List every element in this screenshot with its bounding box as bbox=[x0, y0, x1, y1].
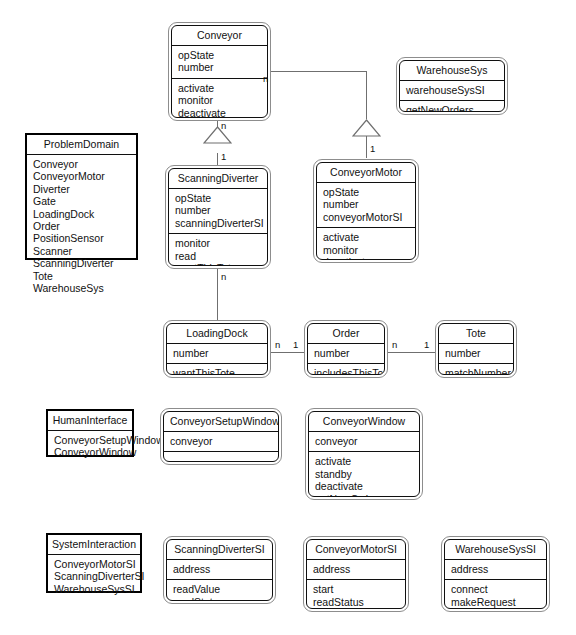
operation: wantThisTote bbox=[173, 367, 267, 375]
class-attributes-scanningdiverter: opState number scanningDiverterSI bbox=[169, 189, 267, 234]
attribute: number bbox=[323, 198, 415, 210]
class-inner-order: Order number includesThisTote bbox=[307, 323, 385, 375]
operation: includesThisTote bbox=[314, 367, 384, 375]
class-inner-conveyormotorsi: ConveyorMotorSI address start readStatus… bbox=[306, 539, 406, 609]
attribute: conveyorMotorSI bbox=[323, 211, 415, 223]
operation: makeRequest bbox=[451, 596, 546, 608]
operation: disconnect bbox=[451, 608, 546, 609]
class-name-conveyorwindow: ConveyorWindow bbox=[309, 412, 419, 432]
list-item: ConveyorMotor bbox=[33, 170, 136, 182]
operation: deactivate bbox=[178, 107, 267, 118]
class-inner-tote: Tote number matchNumber bbox=[438, 323, 514, 375]
operation: activate bbox=[315, 455, 419, 467]
list-item: Tote bbox=[33, 270, 136, 282]
class-inner-conveyor: Conveyor opState number activate monitor… bbox=[171, 25, 268, 118]
class-operations-conveyor: activate monitor deactivate bbox=[172, 79, 267, 118]
list-item: ConveyorWindow bbox=[54, 446, 132, 458]
list-item: ScanningDiverterSI bbox=[54, 570, 140, 582]
class-attributes-conveyorwindow: conveyor bbox=[309, 432, 419, 452]
package-items-problemdomain: Conveyor ConveyorMotor Diverter Gate Loa… bbox=[27, 155, 136, 298]
operation: connect bbox=[451, 583, 546, 595]
package-box-systeminteraction[interactable]: SystemInteraction ConveyorMotorSI Scanni… bbox=[46, 533, 142, 593]
class-operations-warehousesyssi: connect makeRequest disconnect bbox=[445, 580, 546, 609]
multiplicity-order-right: n bbox=[392, 340, 397, 350]
operation: getNewOrders bbox=[406, 104, 504, 112]
class-inner-warehousesyssi: WarehouseSysSI address connect makeReque… bbox=[444, 539, 547, 609]
class-box-warehousesys[interactable]: WarehouseSys warehouseSysSI getNewOrders bbox=[396, 57, 508, 115]
operation: standby bbox=[315, 468, 419, 480]
operation: stop bbox=[313, 608, 405, 609]
package-name-humaninterface: HumanInterface bbox=[48, 411, 132, 431]
class-operations-conveyorsetupwindow bbox=[164, 452, 278, 461]
attribute: opState bbox=[178, 49, 267, 61]
class-attributes-conveyor: opState number bbox=[172, 46, 267, 79]
list-item: WarehouseSysSI bbox=[54, 583, 140, 595]
class-attributes-conveyormotor: opState number conveyorMotorSI bbox=[317, 183, 415, 228]
class-inner-conveyormotor: ConveyorMotor opState number conveyorMot… bbox=[316, 162, 416, 260]
class-attributes-conveyorsetupwindow: conveyor bbox=[164, 432, 278, 452]
list-item: ConveyorSetupWindow bbox=[54, 434, 132, 446]
package-items-humaninterface: ConveyorSetupWindow ConveyorWindow bbox=[48, 431, 132, 463]
list-item: LoadingDock bbox=[33, 208, 136, 220]
operation: monitor bbox=[175, 237, 267, 249]
connector-conveyormotor-vertical bbox=[366, 71, 367, 119]
connector-order-to-tote bbox=[388, 352, 435, 353]
operation: activate bbox=[323, 231, 415, 243]
generalization-triangle-scanningdiverter bbox=[203, 126, 232, 144]
package-box-humaninterface[interactable]: HumanInterface ConveyorSetupWindow Conve… bbox=[46, 409, 134, 457]
class-operations-scanningdivertersi: readValue readStatus bbox=[167, 580, 272, 601]
class-name-order: Order bbox=[308, 324, 384, 344]
connector-scanningdiverter-to-triangle bbox=[217, 153, 218, 165]
operation: readValue bbox=[173, 583, 272, 595]
attribute: address bbox=[451, 563, 546, 575]
class-box-conveyorwindow[interactable]: ConveyorWindow conveyor activate standby… bbox=[305, 408, 423, 500]
operation: read bbox=[175, 250, 267, 262]
class-name-warehousesys: WarehouseSys bbox=[400, 61, 504, 81]
package-box-problemdomain[interactable]: ProblemDomain Conveyor ConveyorMotor Div… bbox=[25, 133, 138, 260]
class-inner-conveyorwindow: ConveyorWindow conveyor activate standby… bbox=[308, 411, 420, 497]
attribute: number bbox=[175, 204, 267, 216]
list-item: PositionSensor bbox=[33, 232, 136, 244]
operation: activate bbox=[178, 82, 267, 94]
multiplicity-tote-left: 1 bbox=[424, 340, 429, 350]
class-name-conveyorsetupwindow: ConveyorSetupWindow bbox=[164, 412, 278, 432]
attribute: opState bbox=[323, 186, 415, 198]
package-name-systeminteraction: SystemInteraction bbox=[48, 535, 140, 555]
operation: deactivate bbox=[315, 480, 419, 492]
class-attributes-scanningdivertersi: address bbox=[167, 560, 272, 580]
class-operations-order: includesThisTote bbox=[308, 364, 384, 375]
attribute: warehouseSysSI bbox=[406, 84, 504, 96]
list-item: Diverter bbox=[33, 183, 136, 195]
class-box-conveyor[interactable]: Conveyor opState number activate monitor… bbox=[168, 22, 271, 121]
class-box-scanningdivertersi[interactable]: ScanningDiverterSI address readValue rea… bbox=[163, 536, 276, 604]
class-box-tote[interactable]: Tote number matchNumber bbox=[435, 320, 517, 378]
multiplicity-loadingdock-right: n bbox=[275, 340, 280, 350]
class-name-scanningdivertersi: ScanningDiverterSI bbox=[167, 540, 272, 560]
class-box-warehousesyssi[interactable]: WarehouseSysSI address connect makeReque… bbox=[441, 536, 550, 612]
list-item: ScanningDiverter bbox=[33, 257, 136, 269]
class-operations-scanningdiverter: monitor read wantThisTote divert bbox=[169, 234, 267, 266]
multiplicity-conveyor-right: n bbox=[263, 74, 268, 84]
connector-loadingdock-to-order bbox=[271, 352, 304, 353]
class-name-conveyormotor: ConveyorMotor bbox=[317, 163, 415, 183]
multiplicity-scanningdiverter-top: 1 bbox=[221, 152, 226, 162]
class-attributes-warehousesys: warehouseSysSI bbox=[400, 81, 504, 101]
class-name-tote: Tote bbox=[439, 324, 513, 344]
class-name-loadingdock: LoadingDock bbox=[167, 324, 267, 344]
operation: monitor bbox=[178, 94, 267, 106]
class-name-scanningdiverter: ScanningDiverter bbox=[169, 169, 267, 189]
class-inner-scanningdiverter: ScanningDiverter opState number scanning… bbox=[168, 168, 268, 266]
list-item: Gate bbox=[33, 195, 136, 207]
operation: readStatus bbox=[313, 596, 405, 608]
class-box-conveyormotor[interactable]: ConveyorMotor opState number conveyorMot… bbox=[313, 159, 419, 263]
class-box-conveyorsetupwindow[interactable]: ConveyorSetupWindow conveyor bbox=[160, 408, 282, 465]
attribute: number bbox=[173, 347, 267, 359]
class-name-conveyor: Conveyor bbox=[172, 26, 267, 46]
class-box-scanningdiverter[interactable]: ScanningDiverter opState number scanning… bbox=[165, 165, 271, 269]
class-operations-loadingdock: wantThisTote bbox=[167, 364, 267, 375]
class-box-loadingdock[interactable]: LoadingDock number wantThisTote bbox=[163, 320, 271, 378]
class-box-conveyormotorsi[interactable]: ConveyorMotorSI address start readStatus… bbox=[303, 536, 409, 612]
class-name-conveyormotorsi: ConveyorMotorSI bbox=[307, 540, 405, 560]
operation: wantThisTote bbox=[175, 262, 267, 266]
class-box-order[interactable]: Order number includesThisTote bbox=[304, 320, 388, 378]
